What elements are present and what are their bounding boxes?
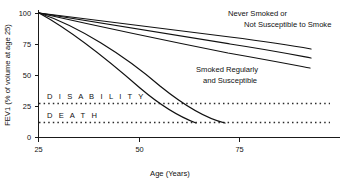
y-axis-title: FEV1 (% of volume at age 25) xyxy=(3,24,12,126)
annotation-never-smoked-line2: Not Susceptible to Smoke xyxy=(244,20,331,29)
x-tick-label-50: 50 xyxy=(135,145,143,154)
y-tick-label-75: 75 xyxy=(23,40,31,49)
disability-label: D I S A B I L I T Y xyxy=(47,92,145,101)
y-tick-label-100: 100 xyxy=(19,9,31,18)
annotation-smoked-regularly-line2: and Susceptible xyxy=(203,76,257,85)
x-axis-title: Age (Years) xyxy=(150,169,190,178)
y-tick-label-0: 0 xyxy=(27,133,31,142)
death-label: D E A T H xyxy=(47,111,99,120)
x-tick-label-25: 25 xyxy=(34,145,42,154)
fev1-decline-chart: 100 75 50 25 0 25 50 75 Age (Years) FEV1… xyxy=(0,0,348,186)
y-tick-label-25: 25 xyxy=(23,102,31,111)
x-tick-label-75: 75 xyxy=(235,145,243,154)
annotation-never-smoked-line1: Never Smoked or xyxy=(228,9,288,18)
y-tick-label-50: 50 xyxy=(23,71,31,80)
annotation-smoked-regularly-line1: Smoked Regularly xyxy=(196,65,258,74)
chart-canvas: 100 75 50 25 0 25 50 75 Age (Years) FEV1… xyxy=(0,0,348,186)
